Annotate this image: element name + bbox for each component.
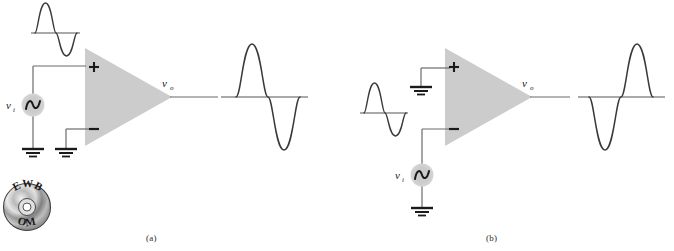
caption-panel-b: (b)	[486, 233, 497, 243]
panel-a-source-label: v i	[6, 99, 15, 114]
disc-hole	[23, 203, 31, 211]
panel-b-ground-noninverting	[410, 87, 432, 95]
input-waveform-trace	[364, 83, 406, 136]
output-label-subscript: o	[170, 84, 174, 92]
figure-root: v o v i	[0, 0, 674, 251]
circuit-diagram-svg: v o v i	[0, 0, 674, 251]
source-label-subscript: i	[402, 176, 404, 184]
panel-b-ground-source	[411, 208, 433, 216]
panel-b-voltage-source	[411, 164, 434, 208]
output-label-main: v	[522, 77, 527, 89]
panel-a-ground-source	[22, 149, 44, 157]
panel-a-noninverting-input-wire	[33, 66, 86, 95]
panel-a-output-waveform	[221, 44, 308, 150]
source-label-main: v	[6, 99, 11, 111]
panel-b-source-label: v i	[395, 169, 404, 184]
source-label-subscript: i	[13, 106, 15, 114]
panel-a-output-label: v o	[162, 77, 174, 92]
opamp-body	[445, 48, 532, 146]
panel-a: v o v i	[6, 3, 308, 157]
panel-a-ground-inverting	[55, 149, 77, 157]
panel-b: v o v i	[360, 44, 665, 216]
panel-b-output-waveform	[578, 44, 665, 150]
panel-b-output-label: v o	[522, 77, 534, 92]
opamp-body	[85, 48, 172, 146]
ewb-cd-icon: EWB OM	[4, 177, 51, 230]
caption-panel-a: (a)	[146, 233, 157, 243]
ewb-bottom-text: OM	[17, 214, 38, 228]
output-label-main: v	[162, 77, 167, 89]
output-label-subscript: o	[530, 84, 534, 92]
panel-a-voltage-source	[22, 94, 45, 149]
panel-a-input-waveform	[31, 3, 80, 56]
source-label-main: v	[395, 169, 400, 181]
input-waveform-trace	[35, 3, 77, 56]
panel-b-input-waveform	[360, 83, 408, 136]
